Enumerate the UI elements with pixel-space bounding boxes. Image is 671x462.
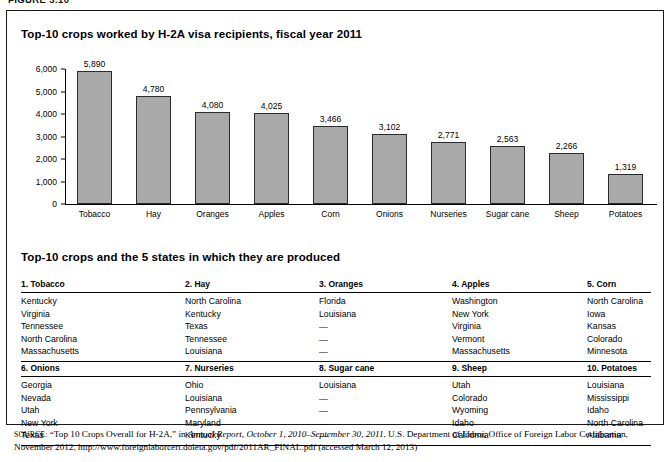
table-column-header: 7. Nurseries (185, 363, 319, 377)
bar-group: 2,771 (431, 69, 465, 204)
x-axis-line (65, 204, 657, 205)
bar-chart: 5,8904,7804,0804,0253,4663,1022,7712,563… (21, 63, 661, 225)
y-axis-tick-mark (61, 204, 65, 205)
source-text-1: “Top 10 Crops Overall for H-2A,” in (50, 429, 188, 439)
table-cell: Pennsylvania (185, 405, 319, 418)
bar-value-label: 4,025 (261, 101, 282, 111)
table-cell: Colorado (587, 333, 651, 346)
table-row: TennesseeTexas—VirginiaKansas (21, 321, 651, 334)
bar-group: 1,319 (608, 69, 642, 204)
table-cell: Louisiana (319, 377, 452, 393)
table-cell: Kentucky (21, 293, 185, 309)
table-cell: Virginia (21, 308, 185, 321)
bar-value-label: 2,266 (556, 141, 577, 151)
table-cell: Vermont (452, 333, 587, 346)
bar (136, 96, 170, 204)
bar-group: 5,890 (77, 69, 111, 204)
bar (313, 126, 347, 204)
bar (490, 146, 524, 204)
table-cell: — (319, 405, 452, 418)
table-cell: Florida (319, 293, 452, 309)
table-column-header: 5. Corn (587, 279, 651, 293)
table-cell: Virginia (452, 321, 587, 334)
table-cell: North Carolina (185, 293, 319, 309)
table-row: NevadaLouisiana—ColoradoMississippi (21, 392, 651, 405)
x-axis-category-label: Potatoes (609, 209, 643, 219)
bar-value-label: 3,102 (379, 122, 400, 132)
table-row: MassachusettsLouisiana—MassachusettsMinn… (21, 346, 651, 362)
table-cell: New York (452, 308, 587, 321)
bar (431, 142, 465, 204)
bar (372, 134, 406, 204)
table-cell: Kentucky (185, 308, 319, 321)
table-row: VirginiaKentuckyLouisianaNew YorkIowa (21, 308, 651, 321)
x-axis-category-label: Tobacco (79, 209, 111, 219)
y-axis-tick-mark (61, 159, 65, 160)
table-cell: Mississippi (587, 392, 651, 405)
table-column-header: 3. Oranges (319, 279, 452, 293)
bar (254, 113, 288, 204)
table-cell: Ohio (185, 377, 319, 393)
table-cell: Louisiana (587, 377, 651, 393)
table-column-header: 6. Onions (21, 363, 185, 377)
table-cell: Massachusetts (21, 346, 185, 362)
table-cell: — (319, 333, 452, 346)
table-cell: Louisiana (185, 346, 319, 362)
table-cell: Georgia (21, 377, 185, 393)
table-column-header: 10. Potatoes (587, 363, 651, 377)
table-column-header: 1. Tobacco (21, 279, 185, 293)
plot-area: 5,8904,7804,0804,0253,4663,1022,7712,563… (65, 69, 655, 204)
figure-label: FIGURE 3.10 (8, 0, 69, 5)
table-cell: North Carolina (21, 333, 185, 346)
bar-value-label: 2,563 (497, 134, 518, 144)
table-row: UtahPennsylvania—WyomingIdaho (21, 405, 651, 418)
chart-title: Top-10 crops worked by H-2A visa recipie… (21, 28, 362, 40)
bar (549, 153, 583, 204)
table-header-row: 6. Onions7. Nurseries8. Sugar cane9. She… (21, 363, 651, 377)
table-column-header: 9. Sheep (452, 363, 587, 377)
table-column-header: 8. Sugar cane (319, 363, 452, 377)
bar-value-label: 3,466 (320, 114, 341, 124)
y-axis-tick-label: 0 (21, 199, 57, 209)
table-1: 1. Tobacco2. Hay3. Oranges4. Apples5. Co… (21, 279, 651, 362)
x-axis-category-label: Sheep (554, 209, 579, 219)
table-column-header: 2. Hay (185, 279, 319, 293)
table-cell: Louisiana (185, 392, 319, 405)
x-axis-category-label: Apples (259, 209, 285, 219)
table-cell: North Carolina (587, 293, 651, 309)
y-axis-tick-label: 3,000 (21, 132, 57, 142)
bar-group: 4,080 (195, 69, 229, 204)
table-title: Top-10 crops and the 5 states in which t… (21, 251, 340, 263)
source-note: SOURCE: “Top 10 Crops Overall for H-2A,”… (14, 428, 662, 454)
bar (77, 71, 111, 204)
y-axis-tick-label: 1,000 (21, 177, 57, 187)
bar-group: 2,266 (549, 69, 583, 204)
table-cell: — (319, 346, 452, 362)
table-cell: Minnesota (587, 346, 651, 362)
table-cell: — (319, 392, 452, 405)
table-cell: Nevada (21, 392, 185, 405)
x-axis-category-label: Onions (376, 209, 403, 219)
bar-group: 2,563 (490, 69, 524, 204)
bar (195, 112, 229, 204)
table-column-header: 4. Apples (452, 279, 587, 293)
states-table-block-1: 1. Tobacco2. Hay3. Oranges4. Apples5. Co… (21, 279, 651, 362)
table-row: North CarolinaTennessee—VermontColorado (21, 333, 651, 346)
bar-value-label: 4,780 (143, 84, 164, 94)
table-cell: Kansas (587, 321, 651, 334)
table-row: GeorgiaOhioLouisianaUtahLouisiana (21, 377, 651, 393)
table-cell: Colorado (452, 392, 587, 405)
table-cell: Texas (185, 321, 319, 334)
table-cell: Idaho (587, 405, 651, 418)
x-axis-category-label: Oranges (196, 209, 229, 219)
table-cell: Wyoming (452, 405, 587, 418)
bar-group: 4,025 (254, 69, 288, 204)
table-cell: Utah (452, 377, 587, 393)
source-label: SOURCE: (14, 430, 47, 439)
bar-value-label: 2,771 (438, 130, 459, 140)
bar-group: 3,466 (313, 69, 347, 204)
table-cell: Massachusetts (452, 346, 587, 362)
table-cell: Tennessee (21, 321, 185, 334)
bar-value-label: 1,319 (615, 162, 636, 172)
table-cell: Louisiana (319, 308, 452, 321)
